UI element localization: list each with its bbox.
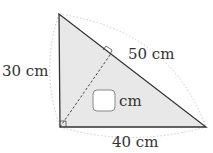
label-unit: cm: [119, 92, 142, 110]
arc-left: [50, 14, 60, 127]
label-left-side: 30 cm: [2, 62, 48, 80]
label-bottom-side: 40 cm: [112, 133, 158, 151]
label-hypotenuse: 50 cm: [128, 45, 174, 63]
answer-box[interactable]: [93, 90, 115, 111]
triangle: [59, 14, 206, 127]
triangle-diagram: 30 cm 50 cm cm 40 cm: [0, 0, 213, 153]
